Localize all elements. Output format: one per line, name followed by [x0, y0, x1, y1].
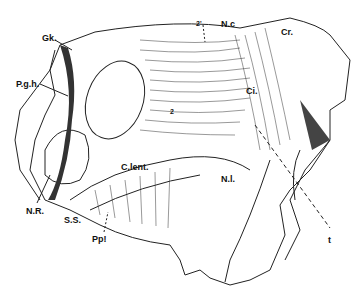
label-nc: N.c [221, 20, 235, 29]
label-pp: Pp! [92, 235, 107, 244]
brain-drawing [0, 0, 363, 290]
label-nr: N.R. [26, 207, 44, 216]
anatomical-illustration: Gk. P.g.h. N.R. S.S. Pp! C.lent. N.l. N.… [0, 0, 363, 290]
label-2-mid: 2 [170, 108, 174, 115]
label-cr: Cr. [281, 28, 293, 37]
label-gk: Gk. [42, 34, 57, 43]
label-t: t [328, 236, 331, 245]
label-clent: C.lent. [121, 163, 149, 172]
label-pgh: P.g.h. [16, 80, 39, 89]
label-ss: S.S. [64, 216, 81, 225]
label-2-top: 2' [196, 20, 202, 27]
label-ci: Ci. [246, 87, 258, 96]
label-nl: N.l. [221, 175, 235, 184]
